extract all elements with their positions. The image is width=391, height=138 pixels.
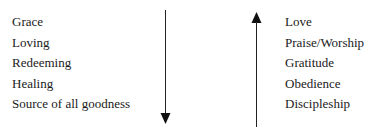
left-item-source: Source of all goodness	[12, 94, 130, 115]
arrow-down-icon	[159, 113, 172, 125]
right-item-discipleship: Discipleship	[285, 94, 364, 115]
down-arrow	[159, 10, 172, 125]
right-item-praise-worship: Praise/Worship	[285, 33, 364, 54]
down-arrow-shaft	[165, 10, 166, 116]
right-item-love: Love	[285, 12, 364, 33]
left-item-redeeming: Redeeming	[12, 53, 130, 74]
left-list: Grace Loving Redeeming Healing Source of…	[12, 12, 130, 115]
right-item-gratitude: Gratitude	[285, 53, 364, 74]
left-item-grace: Grace	[12, 12, 130, 33]
right-item-obedience: Obedience	[285, 74, 364, 95]
up-arrow-shaft	[256, 22, 257, 127]
up-arrow	[250, 12, 263, 130]
left-item-healing: Healing	[12, 74, 130, 95]
right-list: Love Praise/Worship Gratitude Obedience …	[285, 12, 364, 115]
left-item-loving: Loving	[12, 33, 130, 54]
